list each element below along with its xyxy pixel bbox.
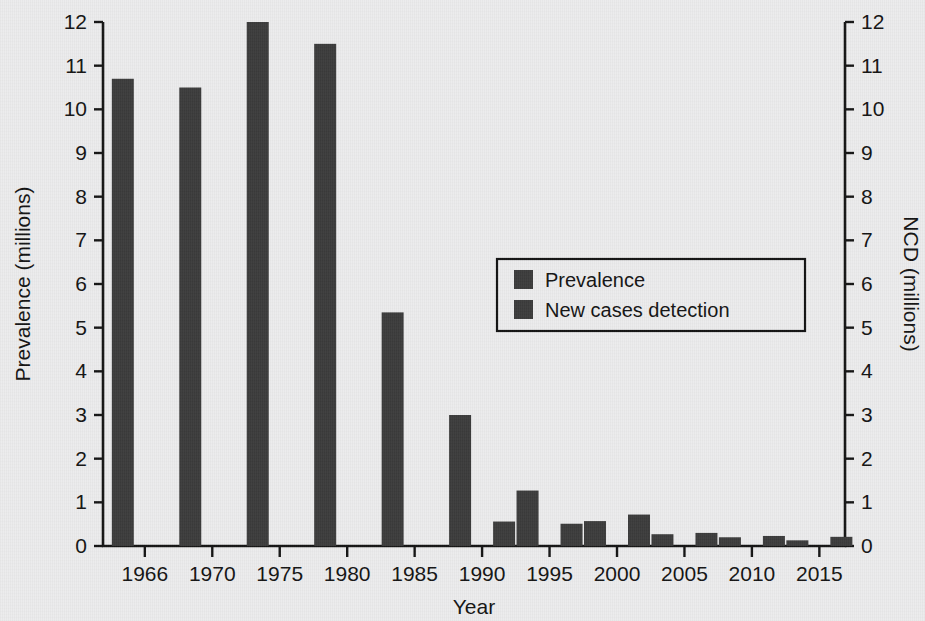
- x-axis-tick-label: 2000: [594, 562, 641, 585]
- bar-prevalence: [314, 44, 336, 546]
- legend-label: New cases detection: [545, 299, 730, 321]
- y-axis-tick-label: 4: [75, 359, 87, 382]
- y2-axis-tick-label: 3: [861, 403, 873, 426]
- y-axis-tick-label: 2: [75, 447, 87, 470]
- y-axis-tick-label: 11: [65, 54, 87, 77]
- bar-new-cases-detection: [830, 537, 852, 546]
- bar-prevalence: [247, 22, 269, 546]
- bar-prevalence: [517, 491, 539, 546]
- x-axis-tick-label: 2010: [729, 562, 776, 585]
- bar-prevalence: [584, 521, 606, 546]
- y-axis-tick-label: 5: [75, 316, 87, 339]
- y2-axis-tick-label: 10: [861, 97, 884, 120]
- x-axis-tick-label: 1975: [256, 562, 303, 585]
- bar-new-cases-detection: [493, 522, 515, 546]
- y2-axis-tick-label: 7: [861, 228, 873, 251]
- y2-axis-tick-label: 5: [861, 316, 873, 339]
- bar-new-cases-detection: [695, 533, 717, 546]
- x-axis-tick-label: 2005: [661, 562, 708, 585]
- y2-axis-tick-label: 2: [861, 447, 873, 470]
- bar-new-cases-detection: [628, 515, 650, 546]
- y2-axis-tick-label: 6: [861, 272, 873, 295]
- y-axis-tick-label: 10: [64, 97, 87, 120]
- bar-new-cases-detection: [763, 536, 785, 546]
- y-axis-tick-label: 7: [75, 228, 87, 251]
- y-axis-tick-label: 6: [75, 272, 87, 295]
- y-axis-title: Prevalence (millions): [11, 187, 34, 382]
- bar-chart: 0123456789101112012345678910111219661970…: [0, 0, 925, 621]
- bar-prevalence: [786, 540, 808, 546]
- legend-swatch: [514, 300, 533, 319]
- y-axis-tick-label: 9: [75, 141, 87, 164]
- bar-prevalence: [179, 88, 201, 547]
- bar-prevalence: [449, 415, 471, 546]
- x-axis-title: Year: [453, 595, 495, 618]
- legend-label: Prevalence: [545, 269, 645, 291]
- x-axis-tick-label: 1980: [324, 562, 371, 585]
- y2-axis-tick-label: 4: [861, 359, 873, 382]
- bar-prevalence: [112, 79, 134, 546]
- x-axis-tick-label: 2015: [796, 562, 843, 585]
- chart-canvas: 0123456789101112012345678910111219661970…: [0, 0, 925, 621]
- x-axis-tick-label: 1990: [459, 562, 506, 585]
- x-axis-tick-label: 1970: [189, 562, 236, 585]
- x-axis-tick-label: 1966: [121, 562, 168, 585]
- y2-axis-tick-label: 0: [861, 534, 873, 557]
- y2-axis-tick-label: 9: [861, 141, 873, 164]
- y2-axis-tick-label: 12: [861, 10, 884, 33]
- legend-swatch: [514, 270, 533, 289]
- y2-axis-tick-label: 1: [861, 490, 873, 513]
- y2-axis-tick-label: 8: [861, 185, 873, 208]
- y-axis-tick-label: 8: [75, 185, 87, 208]
- bar-prevalence: [382, 312, 404, 546]
- x-axis-tick-label: 1985: [391, 562, 438, 585]
- y-axis-tick-label: 1: [75, 490, 87, 513]
- y-axis-tick-label: 3: [75, 403, 87, 426]
- y2-axis-title: NCD (millions): [900, 216, 923, 351]
- y-axis-tick-label: 12: [64, 10, 87, 33]
- y2-axis-tick-label: 11: [861, 54, 883, 77]
- bar-prevalence: [651, 534, 673, 546]
- y-axis-tick-label: 0: [75, 534, 87, 557]
- bar-new-cases-detection: [561, 524, 583, 546]
- x-axis-tick-label: 1995: [526, 562, 573, 585]
- bar-prevalence: [719, 537, 741, 546]
